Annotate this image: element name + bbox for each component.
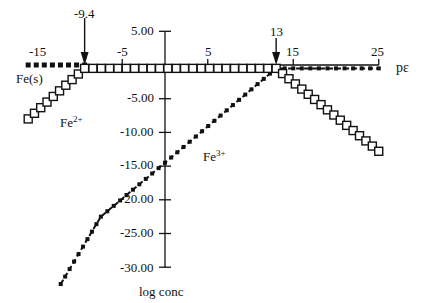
series-label-fe-s: Fe(s)	[16, 72, 43, 85]
fe3-marker	[182, 145, 186, 149]
fe3-marker	[194, 135, 198, 139]
fe3-marker	[300, 66, 304, 70]
fe3-marker	[144, 177, 148, 181]
fe3-marker	[325, 66, 329, 70]
fe3-marker	[256, 82, 260, 86]
fe3-marker	[368, 66, 372, 70]
fe3-marker	[90, 230, 94, 234]
fe2-marker	[197, 64, 205, 72]
x-tick-label: 25	[371, 45, 384, 58]
fe2-marker	[97, 64, 105, 72]
fe3-marker	[360, 66, 364, 70]
y-tick-label: -25.00	[120, 226, 154, 239]
fe3-marker	[175, 150, 179, 154]
fe3-marker	[334, 66, 338, 70]
fe-s-marker	[34, 63, 39, 68]
fe2-marker	[255, 64, 263, 72]
fe3-marker	[200, 129, 204, 133]
series-label-fe3: Fe3+	[203, 149, 226, 163]
y-tick-label: 5.00	[131, 24, 154, 37]
fe2-marker	[139, 64, 147, 72]
fe-s-marker	[66, 63, 71, 68]
fe3-marker	[169, 155, 173, 159]
fe-s-marker	[50, 63, 55, 68]
fe2-marker	[247, 64, 255, 72]
fe3-marker	[237, 98, 241, 102]
fe3-marker	[81, 245, 85, 249]
fe3-marker	[212, 119, 216, 123]
fe3-marker	[99, 215, 103, 219]
arrow-label-left: -9.4	[74, 7, 95, 20]
arrow-label-right: 13	[270, 25, 283, 38]
fe2-marker	[239, 64, 247, 72]
x-axis-label: pε	[396, 61, 409, 75]
fe-s-marker	[26, 63, 31, 68]
x-tick-label: 5	[205, 45, 212, 58]
fe3-marker	[231, 103, 235, 107]
fe3-line	[61, 68, 379, 284]
fe2-marker	[106, 64, 114, 72]
x-tick-label: 15	[286, 45, 299, 58]
fe2-marker	[81, 64, 89, 72]
fe3-marker	[317, 66, 321, 70]
annotation-arrow-head	[272, 52, 280, 65]
fe2-marker	[156, 64, 164, 72]
x-tick-label: -5	[117, 45, 128, 58]
fe3-marker	[249, 87, 253, 91]
x-tick-label: -15	[29, 45, 46, 58]
fe3-marker	[112, 204, 116, 208]
fe2-marker	[214, 64, 222, 72]
fe2-marker	[375, 147, 383, 155]
fe3-marker	[150, 172, 154, 176]
y-tick-label: -10.00	[120, 125, 154, 138]
y-tick-label: -20.00	[120, 192, 154, 205]
fe3-marker	[219, 114, 223, 118]
y-tick-label: -30.00	[120, 261, 154, 274]
fe3-marker	[157, 166, 161, 170]
fe3-marker	[59, 282, 63, 286]
fe2-marker	[172, 64, 180, 72]
fe3-marker	[85, 237, 89, 241]
fe3-marker	[94, 222, 98, 226]
fe3-marker	[308, 66, 312, 70]
y-tick-label: -5.00	[127, 91, 154, 104]
fe-s-marker	[42, 63, 47, 68]
fe2-marker	[206, 64, 214, 72]
fe2-marker	[131, 64, 139, 72]
fe2-sup: 2+	[73, 114, 83, 124]
fe3-marker	[63, 275, 67, 279]
fe2-marker	[264, 64, 272, 72]
fe3-marker	[206, 124, 210, 128]
fe3-marker	[72, 260, 76, 264]
fe2-marker	[222, 64, 230, 72]
fe2-marker	[181, 64, 189, 72]
fe2-marker	[164, 64, 172, 72]
fe3-marker	[291, 66, 295, 70]
fe3-marker	[163, 161, 167, 165]
fe3-marker	[68, 267, 72, 271]
fe3-marker	[243, 93, 247, 97]
fe3-sup: 3+	[216, 148, 226, 158]
fe2-marker	[231, 64, 239, 72]
fe3-marker	[105, 209, 109, 213]
fe3-marker	[351, 66, 355, 70]
fe3-base: Fe	[203, 149, 216, 164]
fe3-marker	[188, 140, 192, 144]
fe2-marker	[122, 64, 130, 72]
fe2-base: Fe	[60, 115, 73, 130]
fe-s-marker	[58, 63, 63, 68]
fe2-marker	[89, 64, 97, 72]
fe2-marker	[189, 64, 197, 72]
fe2-marker	[147, 64, 155, 72]
fe-s-marker	[74, 63, 79, 68]
fe3-marker	[77, 252, 81, 256]
fe2-marker	[114, 64, 122, 72]
fe3-marker	[137, 182, 141, 186]
y-tick-label: -15.00	[120, 158, 154, 171]
series-label-fe2: Fe2+	[60, 115, 83, 129]
fe3-marker	[262, 77, 266, 81]
fe3-marker	[225, 108, 229, 112]
fe3-marker	[377, 66, 381, 70]
y-axis-label: log conc	[139, 285, 183, 298]
fe3-marker	[343, 66, 347, 70]
